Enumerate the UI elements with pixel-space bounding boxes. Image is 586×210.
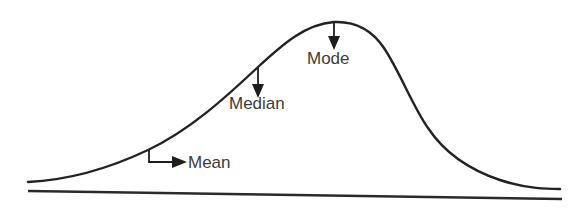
mean-arrow-shaft	[149, 150, 174, 162]
mean-label: Mean	[188, 153, 231, 172]
median-marker: Median	[229, 67, 285, 113]
skewed-distribution-diagram: Mode Median Mean	[0, 0, 586, 210]
median-label: Median	[229, 94, 285, 113]
mode-label: Mode	[307, 49, 350, 68]
x-axis-baseline	[28, 191, 562, 199]
mode-marker: Mode	[307, 22, 350, 68]
distribution-curve	[28, 22, 560, 189]
mean-arrow-head-icon	[172, 156, 187, 168]
mean-marker: Mean	[149, 150, 231, 172]
mode-arrow-head-icon	[328, 36, 340, 50]
